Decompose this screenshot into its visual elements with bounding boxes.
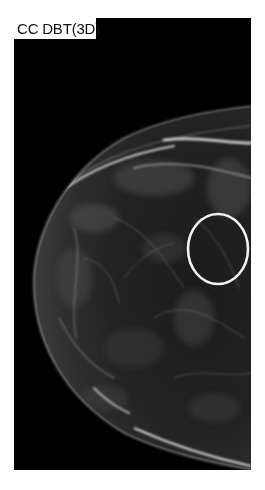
view-label-box: CC DBT(3D): [14, 18, 96, 39]
mammogram-image-panel: [14, 18, 251, 470]
roi-circle-annotation: [14, 18, 251, 470]
view-label: CC DBT(3D): [17, 19, 100, 38]
